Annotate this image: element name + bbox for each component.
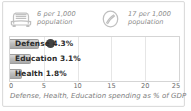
bar-label-education: Education 3.1%: [15, 53, 81, 65]
x-tick-label: 15: [107, 82, 115, 90]
infographic-card: 6 per 1,000 population 17 per 1,000 popu…: [2, 1, 185, 107]
x-axis: 0510152025: [9, 82, 180, 92]
stat-phones-unit: population: [128, 19, 171, 27]
ring-oval-icon: [100, 9, 124, 29]
bar-row[interactable]: Defense 4.3%: [10, 37, 180, 52]
mouse-cursor-overlay: [46, 39, 55, 48]
bar-series: Defense 4.3%Education 3.1%Health 1.8%: [10, 37, 180, 82]
x-tick-label: 10: [73, 82, 81, 90]
bar-label-health: Health 1.8%: [15, 68, 67, 80]
chart-caption: Defense, Health, Education spending as %…: [10, 92, 182, 100]
stat-phones-text: 17 per 1,000 population: [128, 11, 171, 26]
x-tick-label: 25: [172, 82, 180, 90]
stats-row: 6 per 1,000 population 17 per 1,000 popu…: [3, 2, 186, 35]
stat-vehicles-text: 6 per 1,000 population: [37, 11, 76, 26]
bar-row[interactable]: Education 3.1%: [10, 52, 180, 67]
car-icon: [9, 9, 33, 29]
bar-chart: Defense 4.3%Education 3.1%Health 1.8%: [9, 36, 180, 82]
x-tick-label: 5: [42, 82, 46, 90]
plot-area: Defense 4.3%Education 3.1%Health 1.8%: [9, 36, 180, 82]
stat-phones: 17 per 1,000 population: [97, 2, 186, 35]
stat-vehicles: 6 per 1,000 population: [3, 2, 97, 35]
x-tick-label: 0: [9, 82, 13, 90]
stat-vehicles-unit: population: [37, 19, 76, 27]
bar-label-defense: Defense 4.3%: [15, 38, 73, 50]
x-tick-label: 20: [141, 82, 149, 90]
gridline: [179, 37, 180, 81]
bar-row[interactable]: Health 1.8%: [10, 67, 180, 82]
